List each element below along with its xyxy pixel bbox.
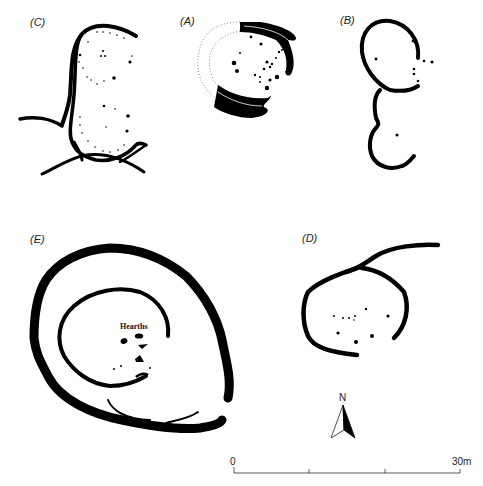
plan-a-wall-south (214, 85, 271, 118)
plan-e-inner-ring (59, 289, 168, 386)
plan-c-wall-west (20, 118, 62, 126)
plan-b: (B) (340, 14, 434, 168)
plan-c-label: (C) (30, 16, 46, 28)
plan-c: (C) (20, 16, 146, 174)
plan-d-west-wall (304, 267, 361, 355)
plan-c-postholes (78, 31, 133, 153)
plan-e-arc-2 (166, 412, 198, 423)
plan-a-dotted-inner (210, 31, 241, 90)
plan-e-hearths (113, 333, 151, 377)
plan-b-lower-wall (370, 90, 414, 168)
plan-e-label: (E) (30, 233, 45, 245)
scale-start-label: 0 (230, 456, 236, 467)
plan-d: (D) (302, 232, 438, 355)
plan-a: (A) (180, 15, 296, 118)
plan-a-label: (A) (180, 15, 195, 27)
plan-d-postholes (333, 308, 390, 344)
north-arrow-right-half (343, 405, 355, 438)
plan-d-east-wall (362, 268, 407, 338)
hearths-annotation: Hearths (120, 322, 148, 331)
plan-e: (E) Hearths (30, 233, 229, 429)
north-arrow-label: N (339, 392, 346, 403)
plan-e-outer-wall (34, 248, 229, 429)
plan-d-label: (D) (302, 232, 318, 244)
plan-a-postholes (232, 36, 287, 91)
plan-b-label: (B) (340, 14, 355, 26)
plan-b-upper-ring (362, 21, 418, 91)
scale-end-label: 30m (452, 456, 471, 467)
north-arrow: N (331, 392, 355, 438)
site-plans-figure: (C) (A) (0, 0, 483, 486)
north-arrow-left-half (331, 405, 344, 438)
scale-bar: 0 30m (230, 456, 471, 473)
plan-c-wall-inner (70, 34, 146, 160)
